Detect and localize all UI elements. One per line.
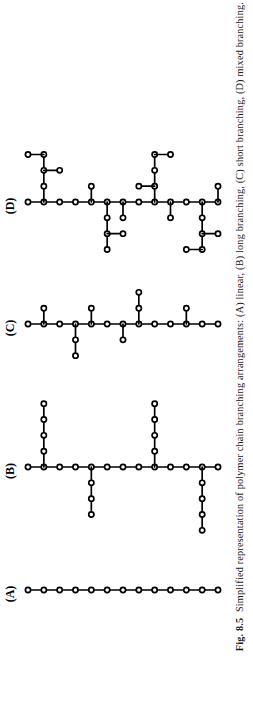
backbone-node-D-3 bbox=[73, 199, 78, 204]
backbone-node-B-3 bbox=[73, 464, 78, 469]
backbone-node-D-7 bbox=[136, 199, 141, 204]
branch-node-B-0-2 bbox=[41, 433, 46, 438]
backbone-node-D-10 bbox=[184, 199, 189, 204]
stub-node-D-6-1-1 bbox=[184, 247, 189, 252]
polymer-branching-diagram: (D)(C)(B)(A) bbox=[0, 0, 253, 713]
branch-node-D-4-2 bbox=[152, 168, 157, 173]
branch-node-B-3-1 bbox=[200, 480, 205, 485]
figure-root: (D)(C)(B)(A) Fig. 8.5 Simplified represe… bbox=[0, 0, 253, 713]
backbone-node-B-12 bbox=[215, 464, 220, 469]
backbone-node-D-0 bbox=[25, 199, 30, 204]
figure-number: Fig. 8.5 bbox=[234, 618, 245, 652]
backbone-node-A-10 bbox=[184, 587, 189, 592]
branch-node-C-4-2 bbox=[136, 290, 141, 295]
branch-node-B-2-1 bbox=[152, 449, 157, 454]
branch-node-D-1-1 bbox=[89, 184, 94, 189]
branch-node-C-1-1 bbox=[73, 337, 78, 342]
panel-label-A: (A) bbox=[3, 586, 17, 603]
branch-node-C-4-1 bbox=[136, 306, 141, 311]
backbone-node-C-12 bbox=[215, 321, 220, 326]
panel-label-D: (D) bbox=[3, 198, 17, 215]
branch-node-D-6-1 bbox=[200, 215, 205, 220]
branch-node-B-1-1 bbox=[89, 480, 94, 485]
branch-node-B-2-2 bbox=[152, 433, 157, 438]
branch-node-B-1-3 bbox=[89, 512, 94, 517]
panel-label-B: (B) bbox=[3, 463, 17, 479]
backbone-node-B-9 bbox=[168, 464, 173, 469]
branch-node-C-5-1 bbox=[184, 306, 189, 311]
branch-node-B-2-3 bbox=[152, 417, 157, 422]
figure-caption-container: Fig. 8.5 Simplified representation of po… bbox=[227, 0, 253, 713]
branch-node-C-3-1 bbox=[120, 337, 125, 342]
backbone-node-D-2 bbox=[57, 199, 62, 204]
branch-node-B-0-4 bbox=[41, 401, 46, 406]
branch-node-C-2-1 bbox=[89, 306, 94, 311]
backbone-node-A-4 bbox=[89, 587, 94, 592]
backbone-node-B-6 bbox=[120, 464, 125, 469]
branch-node-B-1-2 bbox=[89, 496, 94, 501]
backbone-node-B-5 bbox=[105, 464, 110, 469]
backbone-node-B-7 bbox=[136, 464, 141, 469]
branch-node-B-3-2 bbox=[200, 496, 205, 501]
backbone-node-B-2 bbox=[57, 464, 62, 469]
branch-node-D-3-1 bbox=[120, 215, 125, 220]
figure-caption-text: Simplified representation of polymer cha… bbox=[234, 2, 245, 612]
backbone-node-A-2 bbox=[57, 587, 62, 592]
backbone-node-A-8 bbox=[152, 587, 157, 592]
panel-label-C: (C) bbox=[3, 320, 17, 337]
branch-node-B-3-3 bbox=[200, 512, 205, 517]
backbone-node-A-1 bbox=[41, 587, 46, 592]
backbone-node-C-11 bbox=[200, 321, 205, 326]
backbone-node-A-12 bbox=[215, 587, 220, 592]
backbone-node-A-9 bbox=[168, 587, 173, 592]
branch-node-D-2-3 bbox=[105, 247, 110, 252]
branch-node-B-2-4 bbox=[152, 401, 157, 406]
backbone-node-A-3 bbox=[73, 587, 78, 592]
backbone-node-C-9 bbox=[168, 321, 173, 326]
branch-node-C-1-2 bbox=[73, 353, 78, 358]
stub-node-D-4-1-1 bbox=[136, 184, 141, 189]
backbone-node-A-6 bbox=[120, 587, 125, 592]
figure-caption: Fig. 8.5 Simplified representation of po… bbox=[227, 0, 253, 713]
backbone-node-A-7 bbox=[136, 587, 141, 592]
branch-node-D-7-1 bbox=[215, 184, 220, 189]
backbone-node-C-8 bbox=[152, 321, 157, 326]
stub-node-D-0-1-1 bbox=[57, 168, 62, 173]
backbone-node-A-0 bbox=[25, 587, 30, 592]
branch-node-D-5-1 bbox=[168, 215, 173, 220]
branch-node-D-2-1 bbox=[105, 215, 110, 220]
stub-node-D-6-0-1 bbox=[215, 231, 220, 236]
backbone-node-C-0 bbox=[25, 321, 30, 326]
stub-node-D-2-0-1 bbox=[120, 231, 125, 236]
branch-node-B-3-4 bbox=[200, 528, 205, 533]
stub-node-D-4-0-1 bbox=[168, 152, 173, 157]
stub-node-D-0-0-1 bbox=[25, 152, 30, 157]
backbone-node-B-0 bbox=[25, 464, 30, 469]
backbone-node-C-2 bbox=[57, 321, 62, 326]
branch-node-D-0-1 bbox=[41, 184, 46, 189]
backbone-node-B-10 bbox=[184, 464, 189, 469]
backbone-node-A-11 bbox=[200, 587, 205, 592]
branch-node-C-0-1 bbox=[41, 306, 46, 311]
branch-node-B-0-3 bbox=[41, 417, 46, 422]
backbone-node-C-5 bbox=[105, 321, 110, 326]
panel-label-layer: (D)(C)(B)(A) bbox=[3, 198, 17, 603]
backbone-node-A-5 bbox=[105, 587, 110, 592]
diagram-layer bbox=[25, 152, 220, 593]
branch-node-B-0-1 bbox=[41, 449, 46, 454]
